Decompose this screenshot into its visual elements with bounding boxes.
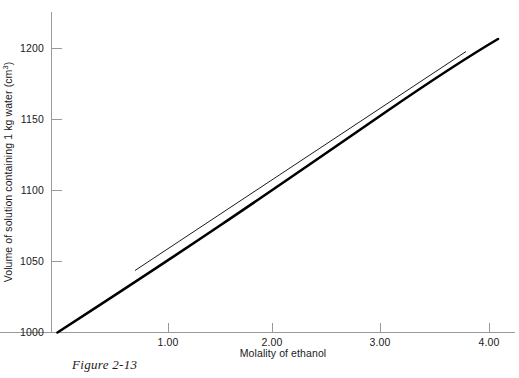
x-tick-label-4: 4.00 — [478, 336, 499, 348]
plot-canvas — [0, 0, 519, 378]
x-tick-label-1: 1.00 — [157, 336, 178, 348]
x-tick-label-3: 3.00 — [369, 336, 390, 348]
y-tick-label-1200: 1200 — [0, 42, 44, 54]
tangent-line — [135, 52, 466, 271]
y-axis-title-superscript: 3 — [1, 65, 10, 69]
x-tick-marks — [169, 323, 490, 332]
y-axis-title-main: Volume of solution containing 1 kg water… — [2, 70, 14, 283]
y-axis-title-close: ) — [2, 62, 14, 66]
y-tick-label-1000: 1000 — [0, 326, 44, 338]
x-axis-title: Molality of ethanol — [240, 347, 327, 359]
figure-caption: Figure 2-13 — [72, 357, 137, 373]
figure-container: 1000 1050 1100 1150 1200 1.00 2.00 3.00 … — [0, 0, 519, 378]
y-tick-marks — [52, 49, 62, 333]
volume-curve — [58, 39, 499, 333]
y-axis-title: Volume of solution containing 1 kg water… — [2, 62, 14, 283]
